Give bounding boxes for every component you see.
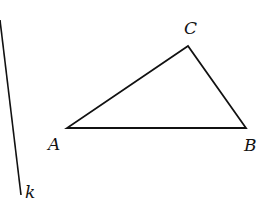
label-b: B: [243, 135, 257, 155]
triangle-diagram: A B C k: [0, 0, 265, 206]
label-c: C: [184, 18, 197, 38]
label-k: k: [25, 182, 35, 202]
label-a: A: [46, 134, 60, 154]
triangle-abc: [67, 46, 246, 128]
line-k: [0, 20, 21, 195]
